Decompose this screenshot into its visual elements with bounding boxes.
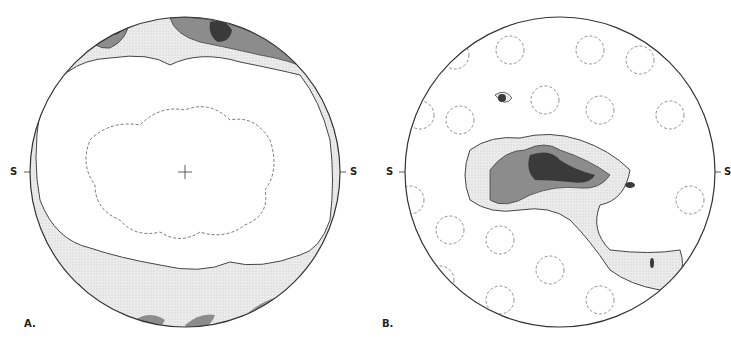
stereonet-b bbox=[395, 17, 721, 327]
south-label-b-right: S bbox=[724, 166, 731, 177]
contour-region-a bbox=[36, 56, 333, 269]
panel-label-a: A. bbox=[24, 318, 36, 329]
panel-label-b: B. bbox=[382, 318, 393, 329]
south-label-a-right: S bbox=[350, 166, 357, 177]
south-label-b-left: S bbox=[386, 166, 393, 177]
stereonet-a bbox=[24, 17, 346, 332]
south-label-a-left: S bbox=[10, 166, 17, 177]
